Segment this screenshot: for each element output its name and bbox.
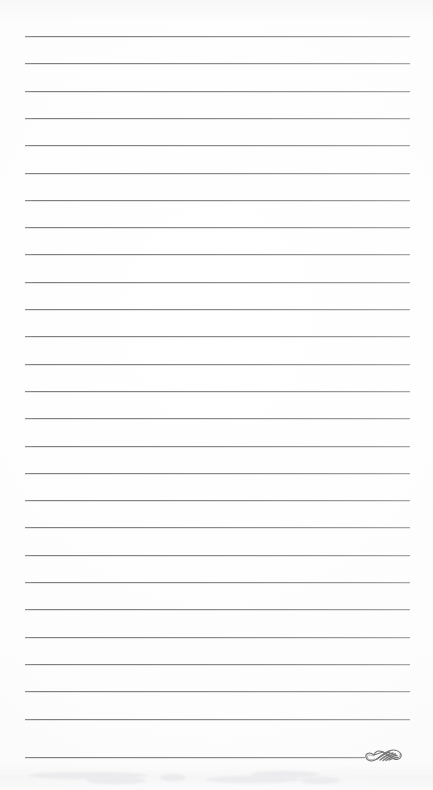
rule-line xyxy=(25,200,410,201)
ruled-lines-layer xyxy=(0,0,433,790)
rule-line xyxy=(25,364,410,365)
rule-line xyxy=(25,309,410,310)
rule-line xyxy=(25,757,365,758)
rule-line xyxy=(25,36,410,37)
rule-line xyxy=(25,637,410,638)
rule-line xyxy=(25,609,410,610)
rule-line xyxy=(25,391,410,392)
notepad-page xyxy=(0,0,433,790)
rule-line xyxy=(25,91,410,92)
rule-line xyxy=(25,527,410,528)
rule-line xyxy=(25,145,410,146)
rule-line xyxy=(25,418,410,419)
rule-line xyxy=(25,582,410,583)
rule-line xyxy=(25,691,410,692)
rule-line xyxy=(25,173,410,174)
rule-line xyxy=(25,555,410,556)
rule-line xyxy=(25,664,410,665)
rule-line xyxy=(25,282,410,283)
rule-line xyxy=(25,446,410,447)
rule-line xyxy=(25,118,410,119)
rule-line xyxy=(25,63,410,64)
rule-line xyxy=(25,227,410,228)
rule-line xyxy=(25,473,410,474)
rule-line xyxy=(25,336,410,337)
rule-line xyxy=(25,719,410,720)
rule-line xyxy=(25,500,410,501)
rule-line xyxy=(25,254,410,255)
